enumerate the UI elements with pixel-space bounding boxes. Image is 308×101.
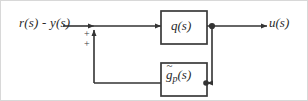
output-signal-label: u(s)	[269, 16, 289, 29]
input-signal-label: r(s) - y(s)	[19, 16, 70, 29]
plantmodel-input-node-dot	[203, 80, 209, 86]
plant-model-base-with-accent: ~g	[166, 68, 173, 81]
block-diagram-figure: r(s) - y(s) u(s) q(s) ~gp(s) + +	[0, 0, 308, 101]
plant-model-argument: (s)	[178, 67, 192, 82]
plant-model-block-label: ~gp(s)	[166, 68, 191, 84]
summing-junction-plus-bottom: +	[84, 39, 90, 49]
controller-block-label: q(s)	[171, 19, 191, 32]
tilde-accent-icon: ~	[167, 60, 173, 71]
